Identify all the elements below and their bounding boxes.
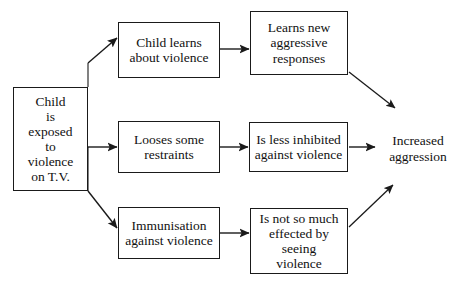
node-child-learns-about-violence: Child learns about violence [118, 22, 220, 78]
edge-source-immunisation-arrow [88, 191, 117, 228]
node-looses-some-restraints: Looses some restraints [118, 121, 220, 173]
node-is-less-inhibited-against-violence: Is less inhibited against violence [249, 122, 348, 172]
node-label: Immunisation against violence [122, 218, 215, 248]
flowchart-diagram: Child is exposed to violence on T.V. Chi… [0, 0, 462, 293]
node-label: Looses some restraints [131, 132, 207, 162]
node-child-exposed-to-tv-violence: Child is exposed to violence on T.V. [13, 87, 88, 191]
edge-effected-outcome [349, 185, 393, 227]
node-label: Child is exposed to violence on T.V. [25, 94, 77, 185]
node-label: Is not so much effected by seeing violen… [256, 211, 341, 271]
node-label: Learns new aggressive responses [265, 20, 334, 65]
node-label: Is less inhibited against violence [252, 132, 345, 162]
node-increased-aggression: Increased aggression [378, 133, 458, 164]
node-immunisation-against-violence: Immunisation against violence [118, 207, 220, 259]
node-learns-new-aggressive-responses: Learns new aggressive responses [250, 11, 348, 75]
edge-source-learns-arrow [88, 38, 117, 63]
edge-responses-outcome [349, 72, 395, 108]
node-is-not-so-much-effected-by-seeing-violence: Is not so much effected by seeing violen… [250, 208, 348, 274]
node-label: Child learns about violence [126, 35, 211, 65]
